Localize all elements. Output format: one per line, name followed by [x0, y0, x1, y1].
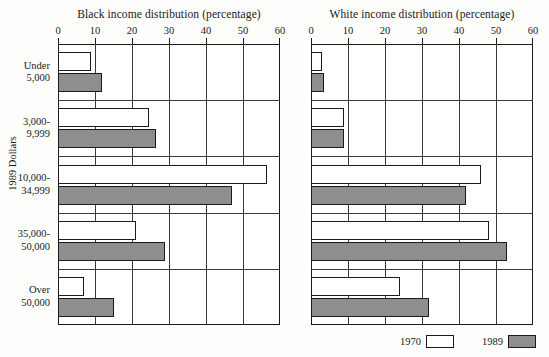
y-category-label-line: 5,000	[0, 72, 50, 85]
y-category-label-line: 50,000	[0, 241, 50, 254]
x-tick-label: 30	[417, 24, 428, 38]
x-tick-label: 40	[454, 24, 465, 38]
x-tick-label: 20	[380, 24, 391, 38]
black-income-plot	[58, 44, 280, 325]
bar-black-1989	[58, 73, 102, 92]
y-category-label-line: Under	[0, 60, 50, 73]
gridline	[206, 44, 207, 325]
x-tick-label: 30	[164, 24, 175, 38]
legend-label-1989: 1989	[482, 336, 503, 347]
bar-white-1989	[311, 186, 466, 205]
y-category-label-line: 50,000	[0, 297, 50, 310]
bar-black-1970	[58, 165, 267, 184]
group-separator	[311, 269, 533, 270]
group-separator	[58, 156, 280, 157]
bar-white-1970	[311, 52, 322, 71]
legend-label-1970: 1970	[400, 336, 421, 347]
group-separator	[311, 213, 533, 214]
gridline	[132, 44, 133, 325]
bar-black-1970	[58, 52, 91, 71]
legend-entry-1970: 1970	[400, 335, 454, 348]
gridline	[496, 44, 497, 325]
x-tick-label: 60	[275, 24, 286, 38]
legend-entry-1989: 1989	[482, 335, 536, 348]
group-separator	[58, 269, 280, 270]
x-tick-label: 40	[201, 24, 212, 38]
x-tick-label: 20	[127, 24, 138, 38]
bar-white-1970	[311, 221, 489, 240]
bar-black-1989	[58, 129, 156, 148]
bar-white-1989	[311, 242, 507, 261]
group-separator	[58, 100, 280, 101]
group-separator	[311, 156, 533, 157]
gridline	[459, 44, 460, 325]
x-tick-label: 0	[308, 24, 313, 38]
bar-black-1989	[58, 298, 114, 317]
chart-legend: 1970 1989	[400, 332, 536, 350]
legend-swatch-1970-icon	[426, 335, 454, 348]
bar-white-1989	[311, 129, 344, 148]
x-tick-label: 10	[90, 24, 101, 38]
x-tick-label: 50	[491, 24, 502, 38]
bar-white-1970	[311, 108, 344, 127]
group-separator	[311, 100, 533, 101]
white-panel-title: White income distribution (percentage)	[311, 8, 533, 20]
gridline	[243, 44, 244, 325]
x-tick-label: 0	[55, 24, 60, 38]
y-axis-title: 1989 Dollars	[7, 104, 18, 224]
x-tick-label: 10	[343, 24, 354, 38]
y-category-label-line: 35,000-	[0, 228, 50, 241]
bar-white-1970	[311, 165, 481, 184]
income-distribution-figure: Black income distribution (percentage) W…	[0, 0, 549, 357]
white-x-axis-tick-labels: 0102030405060	[311, 24, 533, 38]
x-tick-label: 50	[238, 24, 249, 38]
legend-swatch-1989-icon	[508, 335, 536, 348]
bar-white-1989	[311, 73, 324, 92]
group-separator	[58, 213, 280, 214]
bar-black-1989	[58, 186, 232, 205]
bar-black-1970	[58, 277, 84, 296]
gridline	[169, 44, 170, 325]
bar-black-1970	[58, 221, 136, 240]
gridline	[422, 44, 423, 325]
white-income-plot	[311, 44, 533, 325]
y-category-label: Under5,000	[0, 60, 50, 85]
bar-white-1970	[311, 277, 400, 296]
x-tick-label: 60	[528, 24, 539, 38]
y-category-label: 35,000-50,000	[0, 228, 50, 253]
bar-black-1970	[58, 108, 149, 127]
bar-white-1989	[311, 298, 429, 317]
bar-black-1989	[58, 242, 165, 261]
y-category-label-line: Over	[0, 284, 50, 297]
black-x-axis-tick-labels: 0102030405060	[58, 24, 280, 38]
y-category-label: Over50,000	[0, 284, 50, 309]
black-panel-title: Black income distribution (percentage)	[58, 8, 280, 20]
